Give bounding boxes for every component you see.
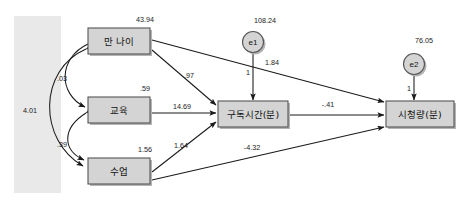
estimate-subtime-to-viewtime: -.41 xyxy=(322,100,334,109)
estimate-age-to-subtime: .97 xyxy=(184,71,194,80)
estimate-age-to-viewtime: 1.84 xyxy=(265,58,279,67)
estimate-edu-to-subtime: 14.69 xyxy=(173,102,191,111)
background-panel xyxy=(14,16,61,193)
node-e1-label: e1 xyxy=(249,38,258,47)
node-subtime-label: 구독시간(분) xyxy=(227,109,279,120)
estimate-covariance-age-income: 4.01 xyxy=(23,106,37,115)
estimate-income-to-subtime: 1.64 xyxy=(174,141,188,150)
variance-e2: 76.05 xyxy=(415,36,433,45)
variance-e1: 108.24 xyxy=(254,16,276,25)
variance-age: 43.94 xyxy=(136,15,154,24)
node-income-label: 수업 xyxy=(110,166,128,177)
sem-path-diagram: 만 나이 43.94 교육 .59 수업 1.56 구독시간(분) 시청량(분)… xyxy=(0,0,470,212)
estimate-income-to-viewtime: -4.32 xyxy=(244,143,260,152)
variance-edu: .59 xyxy=(140,84,150,93)
loading-e2: 1 xyxy=(407,84,411,93)
covariance-edu-income xyxy=(68,113,86,160)
node-age-label: 만 나이 xyxy=(104,36,134,47)
node-e2-label: e2 xyxy=(410,60,419,69)
loading-e1: 1 xyxy=(246,68,250,77)
node-edu-label: 교육 xyxy=(110,105,128,116)
path-income-to-viewtime xyxy=(152,127,384,180)
estimate-covariance-edu-income: .39 xyxy=(57,140,67,149)
variance-income: 1.56 xyxy=(138,145,152,154)
covariance-age-edu xyxy=(65,44,88,107)
node-viewtime-label: 시청량(분) xyxy=(398,109,441,120)
estimate-covariance-age-edu: .03 xyxy=(57,74,67,83)
